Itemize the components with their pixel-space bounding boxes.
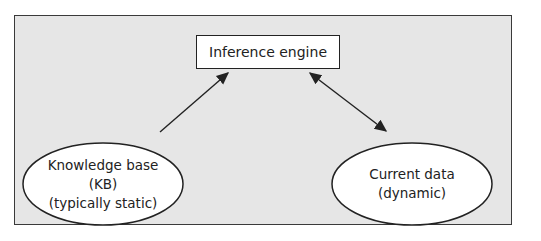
data-label-line-2: (dynamic)	[378, 184, 446, 203]
inference-engine-label: Inference engine	[209, 44, 327, 60]
arrow-engine-data-bidirectional	[310, 73, 386, 131]
data-label-line-1: Current data	[369, 165, 454, 184]
kb-label-line-3: (typically static)	[49, 194, 158, 213]
kb-label-line-2: (KB)	[89, 175, 118, 194]
current-data-node: Current data (dynamic)	[332, 143, 492, 225]
knowledge-base-node: Knowledge base (KB) (typically static)	[23, 143, 183, 225]
kb-label-line-1: Knowledge base	[48, 156, 159, 175]
arrow-kb-to-engine	[160, 73, 228, 132]
inference-engine-node: Inference engine	[196, 35, 340, 69]
